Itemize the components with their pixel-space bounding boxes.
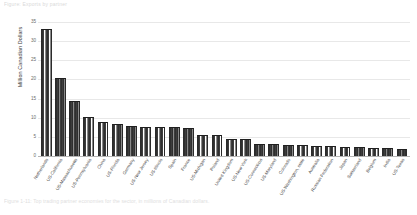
x-tick-label: US-Texas [392,158,406,176]
x-axis-labels: NetherlandsUS-CaliforniaUS-Massachusetts… [38,157,410,203]
bar-slot [224,22,238,156]
bar [183,128,194,156]
x-label-slot: Spain [167,157,181,203]
bar [368,148,379,156]
bar-slot [124,22,138,156]
bar-slot [153,22,167,156]
bar [155,127,166,156]
x-label-slot: US-Illinois [153,157,167,203]
bar-series [38,22,410,156]
y-tick-label: 5 [2,135,36,140]
bar [254,144,265,156]
x-label-slot: China [96,157,110,203]
x-tick-label: Belgium [365,158,377,174]
x-label-slot: US-Texas [395,157,409,203]
bar-slot [181,22,195,156]
bar-slot [82,22,96,156]
bar [382,148,393,156]
bar-slot [39,22,53,156]
bar [240,139,251,156]
x-tick-label: India [383,158,392,168]
bar [397,149,408,156]
x-label-slot: US-Maryland [267,157,281,203]
bar [169,127,180,156]
y-tick-label: 30 [2,39,36,44]
x-label-slot: US-Florida [110,157,124,203]
plot-area [38,22,410,156]
bar-slot [53,22,67,156]
bar [197,135,208,156]
x-tick-label: Spain [168,158,178,170]
x-label-slot: India [381,157,395,203]
bar-slot [210,22,224,156]
x-label-slot: US-Pennsylvania [82,157,96,203]
bar [69,101,80,156]
x-label-slot: US-Michigan [196,157,210,203]
x-label-slot: US-New Jersey [139,157,153,203]
x-tick-label: Japan [339,158,349,170]
x-label-slot: US-Washington, state [295,157,309,203]
bar [354,147,365,156]
bar [41,29,52,156]
bar [212,135,223,156]
bar-slot [381,22,395,156]
bar-slot [196,22,210,156]
x-tick-label: Australia [308,158,321,175]
bar-slot [139,22,153,156]
bar [140,127,151,156]
y-tick-label: 15 [2,96,36,101]
bar-slot [366,22,380,156]
x-label-slot: Russian Federation [324,157,338,203]
bar-slot [338,22,352,156]
bar-slot [324,22,338,156]
bar-slot [96,22,110,156]
y-tick-label: 0 [2,154,36,159]
x-tick-label: Germany [122,158,135,176]
bar [112,124,123,156]
y-tick-label: 25 [2,58,36,63]
bar [268,144,279,156]
bar-slot [295,22,309,156]
chart-frame: Million Canadian Dollars 05101520253035 … [0,8,417,196]
bar-slot [267,22,281,156]
bar-slot [167,22,181,156]
y-tick-label: 10 [2,115,36,120]
figure-caption: Figure 1-11: Top trading partner economi… [4,198,413,205]
x-tick-label: China [97,158,107,170]
bar-slot [238,22,252,156]
y-tick-label: 35 [2,20,36,25]
bar [83,117,94,156]
bar-slot [281,22,295,156]
bar [126,126,137,156]
bar [340,147,351,156]
y-axis-ticks: 05101520253035 [0,22,36,156]
x-label-slot: Switzerland [352,157,366,203]
bar [98,122,109,156]
bar-slot [352,22,366,156]
x-tick-label: Poland [210,158,221,172]
x-tick-label: Colorado [279,158,292,175]
x-label-slot: Belgium [366,157,380,203]
bar [55,78,66,156]
x-tick-label: France [181,158,192,172]
bar-slot [110,22,124,156]
bar-slot [253,22,267,156]
bar [297,145,308,156]
figure-container: Figure: Exports by partner Million Canad… [0,0,417,215]
bar [311,146,322,156]
bar-slot [395,22,409,156]
bar-slot [309,22,323,156]
bar-slot [67,22,81,156]
bar [283,145,294,156]
y-tick-label: 20 [2,77,36,82]
x-label-slot: Japan [338,157,352,203]
bar [325,146,336,156]
bar [226,139,237,156]
